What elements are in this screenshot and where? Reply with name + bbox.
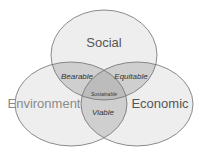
label-viable: Viable bbox=[92, 108, 115, 117]
label-equitable: Equitable bbox=[114, 72, 148, 81]
label-sustainable: Sustainable bbox=[91, 91, 117, 97]
venn-diagram: Social Environment Economic Bearable Equ… bbox=[0, 0, 198, 159]
label-bearable: Bearable bbox=[61, 72, 94, 81]
label-environment: Environment bbox=[8, 96, 81, 111]
label-economic: Economic bbox=[131, 96, 189, 111]
label-social: Social bbox=[86, 35, 122, 50]
